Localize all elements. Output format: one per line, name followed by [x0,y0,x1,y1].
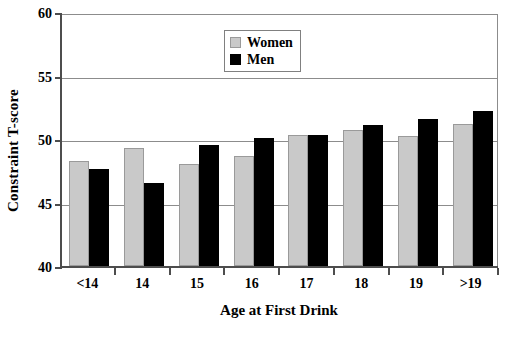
y-tick-mark-45 [55,204,62,206]
bar-group [445,14,500,266]
y-tick-label-45: 45 [38,197,52,213]
x-tick-label-1: 14 [135,276,149,292]
bar-women [234,156,254,266]
y-tick-mark-60 [55,13,62,15]
bar-men [308,135,328,266]
x-axis-title: Age at First Drink [60,302,498,319]
bar-group [117,14,172,266]
chart-legend: Women Men [224,30,301,72]
y-axis-tick-labels: 4045505560 [26,0,56,300]
bar-women [124,148,144,266]
bar-men [363,125,383,266]
x-tick-mark-7 [497,268,499,275]
y-tick-mark-50 [55,140,62,142]
bar-women [179,164,199,266]
x-tick-mark-1 [169,268,171,275]
y-tick-label-50: 50 [38,133,52,149]
x-tick-label-4: 17 [299,276,313,292]
black-square-icon [230,54,241,65]
bar-men [89,169,109,266]
bar-men [473,111,493,266]
x-tick-mark-0 [114,268,116,275]
x-tick-mark-5 [388,268,390,275]
x-tick-label-6: 19 [409,276,423,292]
bar-men [144,183,164,266]
bar-women [343,130,363,266]
y-tick-label-55: 55 [38,70,52,86]
bar-group [172,14,227,266]
legend-label-men: Men [247,52,274,68]
x-axis-tick-marks [60,268,498,275]
x-tick-mark-4 [333,268,335,275]
bar-men [199,145,219,266]
x-axis-tick-labels: <14141516171819>19 [60,276,498,298]
y-tick-label-40: 40 [38,260,52,276]
x-tick-mark-2 [223,268,225,275]
bar-group [391,14,446,266]
x-tick-label-0: <14 [76,276,98,292]
bar-women [288,135,308,266]
gray-square-icon [230,37,241,48]
bar-group [62,14,117,266]
bar-men [418,119,438,266]
y-tick-label-60: 60 [38,6,52,22]
bar-women [453,124,473,266]
x-tick-mark-6 [442,268,444,275]
bar-group [336,14,391,266]
legend-label-women: Women [247,35,293,51]
bar-men [254,138,274,266]
legend-item-men: Men [230,51,293,68]
bar-women [69,161,89,266]
y-axis-title-text: Constraint T-score [5,89,22,212]
x-tick-label-7: >19 [460,276,482,292]
y-axis-title: Constraint T-score [0,0,26,300]
bar-women [398,136,418,266]
y-tick-mark-55 [55,77,62,79]
figure-bar-chart: Constraint T-score 4045505560 <141415161… [0,0,505,346]
x-tick-mark-3 [278,268,280,275]
x-tick-label-2: 15 [190,276,204,292]
x-tick-label-3: 16 [245,276,259,292]
legend-item-women: Women [230,34,293,51]
x-tick-label-5: 18 [354,276,368,292]
